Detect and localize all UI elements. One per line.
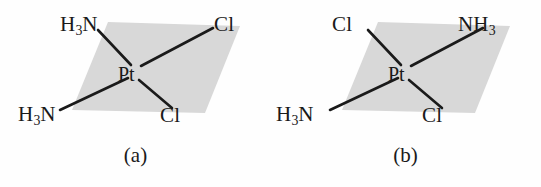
- chemistry-figure: Pt H3N Cl H3N Cl (a) Pt Cl NH3 H3N Cl (b…: [0, 0, 541, 187]
- ligand-label-bottom-left-a: H3N: [18, 104, 56, 125]
- ligand-base-a-tr: Cl: [214, 12, 234, 36]
- ligand-tail-a-bl: N: [40, 102, 55, 126]
- ligand-base-b-tr: NH: [458, 12, 489, 36]
- ligand-base-a-bl: H: [18, 102, 33, 126]
- ligand-label-bottom-right-a: Cl: [160, 105, 180, 126]
- ligand-base-a-tl: H: [60, 12, 75, 36]
- structure-b: Pt Cl NH3 H3N Cl (b): [270, 0, 541, 187]
- caption-b: (b): [270, 145, 541, 166]
- ligand-sub-a-tl: 3: [75, 23, 82, 38]
- ligand-tail-a-tl: N: [82, 12, 97, 36]
- ligand-base-b-bl: H: [276, 102, 291, 126]
- ligand-label-top-right-a: Cl: [214, 14, 234, 35]
- ligand-base-b-tl: Cl: [332, 12, 352, 36]
- ligand-label-top-left-b: Cl: [332, 14, 352, 35]
- caption-a: (a): [0, 145, 271, 166]
- center-atom-label-b: Pt: [388, 64, 405, 84]
- center-atom-label-a: Pt: [118, 64, 135, 84]
- ligand-tail-b-bl: N: [298, 102, 313, 126]
- ligand-label-bottom-left-b: H3N: [276, 104, 314, 125]
- structure-a: Pt H3N Cl H3N Cl (a): [0, 0, 271, 187]
- ligand-label-top-right-b: NH3: [458, 14, 496, 35]
- ligand-sub-a-bl: 3: [33, 113, 40, 128]
- ligand-label-top-left-a: H3N: [60, 14, 98, 35]
- ligand-sub-b-tr: 3: [489, 23, 496, 38]
- ligand-sub-b-bl: 3: [291, 113, 298, 128]
- ligand-base-b-br: Cl: [422, 103, 442, 127]
- ligand-base-a-br: Cl: [160, 103, 180, 127]
- ligand-label-bottom-right-b: Cl: [422, 105, 442, 126]
